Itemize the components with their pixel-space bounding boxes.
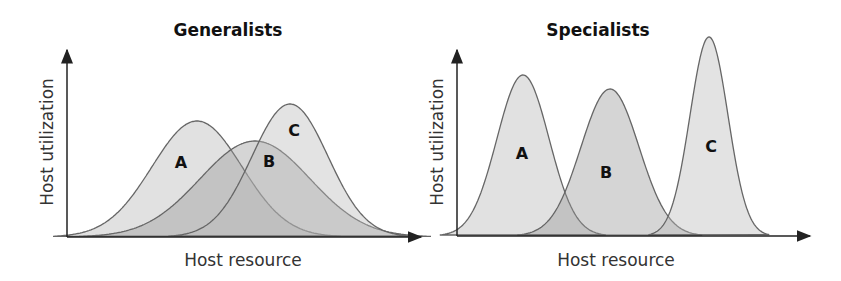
curve-c <box>648 37 769 235</box>
y-axis-label: Host utilization <box>427 78 447 206</box>
curve-label-b: B <box>600 163 612 182</box>
curve-label-c: C <box>288 121 300 140</box>
panel-specialists: Specialists Host resource Host utilizati… <box>427 20 810 270</box>
curve-label-a: A <box>516 144 529 163</box>
figure: Generalists Host resource Host utilizati… <box>0 0 841 281</box>
panel-title: Specialists <box>546 20 649 40</box>
curve-label-b: B <box>263 152 275 171</box>
panel-generalists: Generalists Host resource Host utilizati… <box>37 20 431 270</box>
y-axis-label: Host utilization <box>37 78 57 206</box>
curves-specialists <box>440 37 769 235</box>
x-axis-label: Host resource <box>184 250 302 270</box>
curve-label-a: A <box>175 153 188 172</box>
curves-generalists <box>53 104 431 236</box>
panel-title: Generalists <box>174 20 283 40</box>
x-axis-label: Host resource <box>557 250 675 270</box>
curve-label-c: C <box>705 137 717 156</box>
